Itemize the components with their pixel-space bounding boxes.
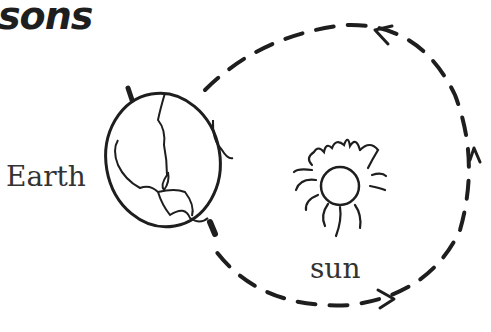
orbit-arrow-icon [375,26,480,308]
orbit-diagram [0,0,491,332]
sun-icon [294,140,386,236]
orbit-path [205,25,469,306]
earth-icon [95,84,233,236]
